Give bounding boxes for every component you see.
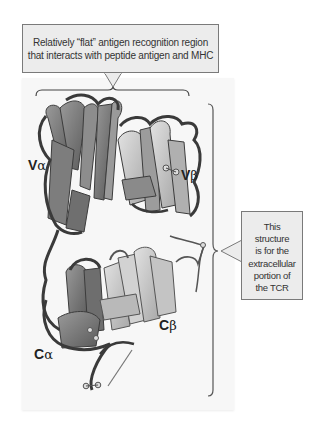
label-letter: C (159, 317, 169, 333)
callout-antigen-recognition: Relatively “flat” antigen recognition re… (22, 24, 219, 73)
label-letter: V (28, 157, 37, 173)
label-c-alpha: Cα (34, 346, 53, 362)
callout-line: Relatively “flat” antigen recognition re… (27, 37, 214, 50)
v-beta-domain (118, 121, 190, 214)
top-brace (36, 86, 189, 96)
callout-line: that interacts with peptide antigen and … (27, 50, 214, 63)
label-greek: β (190, 168, 198, 183)
label-letter: C (34, 346, 44, 362)
label-letter: V (181, 167, 190, 183)
callout-line: This (244, 221, 300, 233)
label-c-beta: Cβ (159, 317, 177, 333)
label-v-beta: Vβ (181, 167, 198, 183)
label-v-alpha: Vα (28, 157, 46, 173)
callout-line: extracellular (244, 258, 300, 270)
v-alpha-domain (46, 101, 122, 232)
right-callout-pointer (221, 240, 242, 262)
callout-line: portion of (244, 270, 300, 282)
label-greek: α (44, 347, 53, 362)
callout-line: is for the (244, 245, 300, 257)
label-greek: α (37, 158, 46, 173)
right-brace (208, 104, 218, 396)
top-callout-pointer (104, 72, 122, 87)
callout-line: structure (244, 233, 300, 245)
label-greek: β (169, 318, 177, 333)
callout-extracellular: This structure is for the extracellular … (241, 211, 303, 300)
callout-line: the TCR (244, 282, 300, 294)
